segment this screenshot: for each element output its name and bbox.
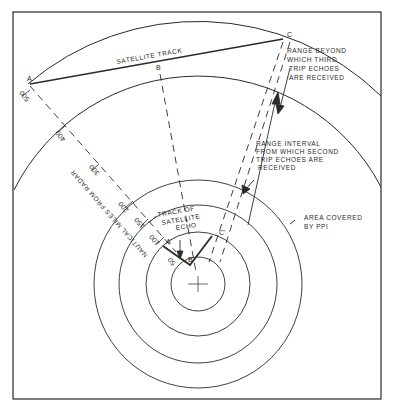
satellite-track-line [30, 39, 283, 84]
scale-tick-500: 500 [18, 89, 31, 102]
range-interval-label-3: TRIP ECHOES ARE [256, 156, 324, 163]
area-covered-label-1: AREA COVERED [304, 214, 363, 221]
area-covered-label-2: BY PPI [304, 223, 328, 230]
point-a-prime-label: A' [166, 238, 172, 245]
range-beyond-label-3: TRIP ECHOES [289, 65, 340, 72]
second-trip-range-arc [14, 76, 381, 190]
radar-echo-diagram: A B C A' B' C' SATELLITE TRACK RANGE BEY… [0, 0, 394, 409]
radar-center-crosshair [188, 276, 208, 292]
point-b-prime-label: B' [188, 256, 194, 263]
scale-tick-300: 300 [88, 163, 101, 176]
scale-tick-200: 200 [117, 200, 130, 213]
point-b-label: B [156, 64, 161, 71]
point-c-label: C [287, 31, 292, 38]
range-interval-label-4: RECEIVED [258, 164, 296, 171]
point-a-label: A [27, 75, 32, 82]
range-beyond-label-1: RANGE BEYOND [287, 47, 347, 54]
scale-tick-50: 50 [166, 256, 176, 267]
scale-tick-100: 100 [148, 233, 161, 246]
range-interval-label-1: RANGE INTERVAL [256, 140, 321, 147]
track-of-echo-leader [150, 216, 156, 222]
scale-tick-400: 400 [54, 129, 67, 142]
range-beyond-label-2: WHICH THIRD [287, 56, 337, 63]
range-beyond-label-4: ARE RECEIVED [289, 74, 345, 81]
range-interval-label-2: FROM WHICH SECOND [256, 148, 339, 155]
axis-label: NAUTICAL MILES FROM RADAR [69, 169, 149, 259]
point-c-prime-label: C' [219, 229, 225, 236]
